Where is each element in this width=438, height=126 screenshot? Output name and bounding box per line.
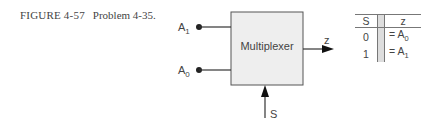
input-a0-label: A0 (178, 64, 190, 79)
header-s: S (355, 15, 378, 28)
output-z-label: z (324, 34, 330, 46)
table-row: 0 = A0 (355, 28, 421, 46)
select-s-label: S (270, 108, 277, 120)
truth-table: S z 0 = A0 1 = A1 (355, 14, 421, 62)
output-arrow-icon (322, 45, 334, 53)
header-z: z (385, 15, 422, 28)
multiplexer-label: Multiplexer (231, 40, 303, 52)
table-row: 1 = A1 (355, 45, 421, 62)
input-a1-label: A1 (178, 21, 190, 36)
select-arrow-icon (261, 85, 269, 97)
truth-table-header: S z (355, 15, 421, 28)
